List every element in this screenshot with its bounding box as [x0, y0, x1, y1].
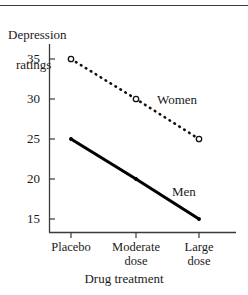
series-label-women: Women [157, 93, 197, 107]
x-tick-label-large-line2: dose [188, 254, 211, 268]
x-tick-label-moderate-line2: dose [125, 254, 148, 268]
data-point-men-large [197, 217, 201, 221]
x-tick-label-moderate-line1: Moderate [112, 240, 160, 254]
x-axis-title: Drug treatment [0, 272, 248, 286]
data-point-women-placebo [68, 56, 73, 61]
x-tick-label-large-dose: Large dose [159, 240, 239, 268]
data-point-men-placebo [69, 137, 73, 141]
data-point-men-moderate [134, 177, 138, 181]
x-tick-label-placebo-line1: Placebo [51, 240, 91, 254]
chart-figure: Depression ratings 35 30 25 20 15 [0, 0, 248, 295]
data-point-women-large [196, 136, 201, 141]
series-label-men: Men [172, 185, 196, 199]
x-tick-label-large-line1: Large [185, 240, 214, 254]
data-point-women-moderate [133, 96, 138, 101]
